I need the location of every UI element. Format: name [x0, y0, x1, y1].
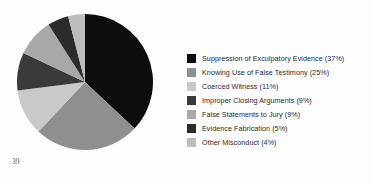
legend-item: Evidence Fabrication (5%) [187, 121, 367, 135]
legend-item-label: Suppression of Exculpatory Evidence (37%… [202, 54, 344, 63]
legend-item: Suppression of Exculpatory Evidence (37%… [187, 51, 367, 65]
legend-swatch-icon [187, 124, 196, 133]
legend-item: Knowing Use of False Testimony (25%) [187, 65, 367, 79]
legend-item-label: Improper Closing Arguments (9%) [202, 96, 312, 105]
chart-legend: Suppression of Exculpatory Evidence (37%… [187, 51, 367, 149]
legend-swatch-icon [187, 138, 196, 147]
pie-svg [17, 14, 153, 150]
legend-item-label: Evidence Fabrication (5%) [202, 124, 288, 133]
legend-item-label: Knowing Use of False Testimony (25%) [202, 68, 329, 77]
pie-chart-figure: Suppression of Exculpatory Evidence (37%… [0, 0, 372, 184]
legend-item: False Statements to Jury (9%) [187, 107, 367, 121]
legend-item: Improper Closing Arguments (9%) [187, 93, 367, 107]
legend-item-label: Coerced Witness (11%) [202, 82, 278, 91]
legend-item-label: False Statements to Jury (9%) [202, 110, 300, 119]
legend-item: Other Misconduct (4%) [187, 135, 367, 149]
legend-swatch-icon [187, 96, 196, 105]
page-number: 39 [12, 157, 20, 166]
pie-chart-graphic [17, 14, 153, 150]
legend-item-label: Other Misconduct (4%) [202, 138, 277, 147]
legend-swatch-icon [187, 82, 196, 91]
pie-slice-group [17, 14, 153, 150]
legend-item: Coerced Witness (11%) [187, 79, 367, 93]
legend-swatch-icon [187, 68, 196, 77]
legend-swatch-icon [187, 110, 196, 119]
legend-swatch-icon [187, 54, 196, 63]
